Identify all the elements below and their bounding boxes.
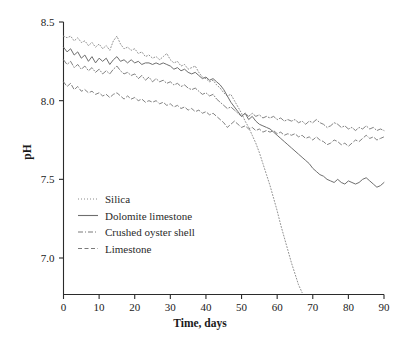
y-axis-title: pH [21,144,34,159]
x-tick-label: 50 [236,301,248,313]
chart-background [0,0,408,342]
legend-label-dolomite-limestone: Dolomite limestone [105,210,192,222]
x-tick-label: 60 [272,301,284,313]
y-tick-label: 8.5 [41,16,55,28]
chart-canvas: 7.07.58.08.5 0102030405060708090 pH Time… [0,0,408,342]
y-tick-label: 7.0 [41,252,55,264]
x-axis-title: Time, days [173,317,227,330]
legend-label-limestone: Limestone [105,243,152,255]
x-tick-label: 20 [129,301,141,313]
x-tick-label: 40 [200,301,212,313]
ph-vs-time-line-chart: 7.07.58.08.5 0102030405060708090 pH Time… [0,0,408,342]
x-tick-label: 0 [61,301,67,313]
y-tick-label: 7.5 [41,173,55,185]
y-tick-label: 8.0 [41,95,55,107]
x-tick-label: 30 [165,301,177,313]
legend-label-crushed-oyster-shell: Crushed oyster shell [105,226,195,238]
x-tick-label: 80 [343,301,355,313]
x-tick-label: 10 [94,301,106,313]
legend-label-silica: Silica [105,193,130,205]
x-tick-label: 90 [379,301,391,313]
x-tick-label: 70 [307,301,319,313]
